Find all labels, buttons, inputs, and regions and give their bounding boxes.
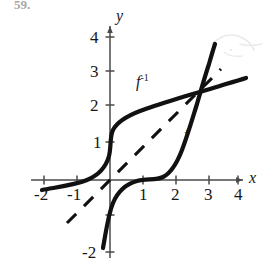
x-tick-label-2: 2 (171, 186, 180, 203)
x-tick-label-4: 4 (234, 186, 243, 203)
graph-canvas (0, 0, 269, 276)
curve-label-f: f (184, 127, 188, 143)
y-tick-label--2: -2 (82, 244, 96, 261)
x-tick-label--2: -2 (34, 186, 48, 203)
problem-number: 59. (14, 0, 30, 11)
scan-smudge-artifact (212, 35, 262, 57)
curve-label-f-inverse: f-1 (136, 73, 149, 90)
y-axis-label: y (116, 8, 123, 24)
x-tick-label-3: 3 (204, 186, 213, 203)
curve-f (103, 44, 215, 248)
x-axis-label: x (249, 170, 256, 186)
curve-f-inverse (42, 78, 246, 190)
y-tick-label-2: 2 (90, 97, 99, 114)
f-inverse-exponent: -1 (140, 72, 148, 83)
x-tick-label--1: -1 (67, 186, 81, 203)
y-tick-label-1: 1 (93, 134, 102, 151)
y-tick-label-3: 3 (90, 63, 99, 80)
inverse-function-figure: 59. y x -2 -1 1 2 3 4 4 3 2 1 -2 f-1 f (0, 0, 269, 276)
y-tick-label-4: 4 (90, 29, 99, 46)
x-tick-label-1: 1 (139, 186, 148, 203)
